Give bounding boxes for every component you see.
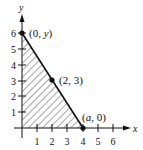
x-tick-label: 3 [65, 136, 70, 147]
y-tick-labels: 1 2 3 4 5 6 [11, 28, 16, 118]
chart-canvas: 1 2 3 4 5 6 1 2 3 4 5 6 x y (0, y) (2, 3… [0, 0, 143, 150]
y-tick-label: 6 [11, 28, 16, 39]
x-tick-labels: 1 2 3 4 5 6 [35, 136, 116, 147]
y-tick-label: 2 [11, 91, 16, 102]
x-tick-label: 4 [81, 136, 86, 147]
y-tick-label: 1 [11, 107, 16, 118]
point-label-2-3: (2, 3) [59, 74, 83, 87]
y-axis-label: y [18, 2, 24, 13]
point-a-0 [80, 125, 85, 130]
x-tick-label: 1 [35, 136, 40, 147]
x-axis-arrow-icon [123, 126, 131, 131]
point-label-a-0: (a, 0) [82, 111, 106, 124]
point-0-y [19, 30, 24, 35]
y-axis-arrow-icon [20, 14, 25, 22]
point-2-3 [49, 77, 54, 82]
y-tick-label: 4 [11, 60, 16, 71]
y-tick-label: 3 [11, 76, 16, 87]
point-label-0-y: (0, y) [29, 27, 53, 40]
x-tick-label: 6 [111, 136, 116, 147]
y-tick-label: 5 [11, 44, 16, 55]
x-tick-label: 2 [50, 136, 55, 147]
x-tick-label: 5 [96, 136, 101, 147]
x-axis-label: x [132, 123, 138, 134]
